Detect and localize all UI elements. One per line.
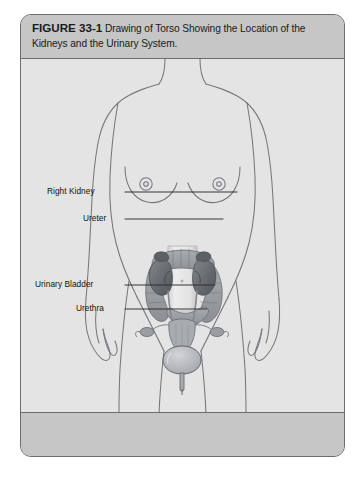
illustration-area: Right Kidney Ureter Urinary Bladder Uret…: [21, 59, 344, 414]
right-ovary-ligament: [136, 331, 140, 337]
urinary-bladder-group: [163, 346, 201, 374]
neck-right-outline: [200, 59, 206, 84]
right-areola: [213, 178, 225, 190]
right-nipple: [217, 182, 222, 187]
callout-label-urethra: Urethra: [76, 303, 104, 313]
figure-caption-band: FIGURE 33-1 Drawing of Torso Showing the…: [21, 15, 344, 59]
left-areola: [140, 178, 152, 190]
left-leg-outer-outline: [119, 281, 129, 414]
left-adrenal-gland: [196, 252, 211, 262]
right-torso-side-outline: [228, 103, 255, 297]
left-kidney: [193, 259, 216, 295]
figure-caption: FIGURE 33-1 Drawing of Torso Showing the…: [32, 21, 333, 51]
torso-anatomy-illustration: [21, 59, 344, 414]
left-hand-inner-outline: [96, 311, 99, 343]
figure-frame: FIGURE 33-1 Drawing of Torso Showing the…: [20, 14, 345, 457]
right-shoulder-arm-outline: [206, 84, 279, 299]
spine-marker: [181, 280, 184, 283]
right-kidney: [149, 259, 172, 295]
urinary-bladder: [163, 346, 201, 374]
left-shoulder-arm-outline: [86, 84, 159, 299]
right-adrenal-gland: [154, 252, 169, 262]
callout-label-ureter: Ureter: [83, 213, 106, 223]
figure-number-label: FIGURE 33-1: [32, 21, 102, 34]
urethra-group: [180, 373, 184, 395]
callout-label-right-kidney: Right Kidney: [47, 186, 95, 196]
left-ovary: [210, 328, 224, 337]
urethra: [180, 373, 184, 391]
left-torso-side-outline: [110, 103, 137, 297]
right-hand-inner-outline: [266, 311, 269, 343]
right-leg-outer-outline: [236, 281, 246, 414]
neck-left-outline: [159, 59, 165, 84]
callout-label-urinary-bladder: Urinary Bladder: [35, 279, 93, 289]
left-ovary-ligament: [224, 331, 228, 337]
right-hand-outline: [255, 299, 280, 360]
right-leg-inner-outline: [201, 351, 206, 414]
figure-footer-band: [21, 412, 344, 456]
left-nipple: [144, 182, 149, 187]
left-breast-outline: [125, 167, 177, 203]
right-ovary: [140, 328, 154, 337]
right-breast-outline: [188, 167, 240, 203]
